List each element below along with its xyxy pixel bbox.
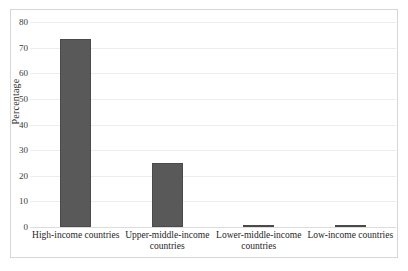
x-tick-label-line: countries xyxy=(215,241,303,252)
y-tick-label: 70 xyxy=(2,44,28,53)
y-tick-label: 40 xyxy=(2,121,28,130)
bar xyxy=(243,225,274,227)
x-tick-label: Lower-middle-incomecountries xyxy=(213,230,305,252)
x-tick-label-line: Lower-middle-income xyxy=(215,230,303,241)
y-tick-label: 0 xyxy=(2,223,28,232)
bar xyxy=(152,163,183,227)
gridline-80 xyxy=(30,22,396,23)
y-tick-label: 50 xyxy=(2,95,28,104)
gridline-0 xyxy=(30,227,396,228)
y-tick-label: 20 xyxy=(2,172,28,181)
figure: Percentage 80706050403020100 High-income… xyxy=(0,0,408,271)
x-tick-label-line: Upper-middle-income xyxy=(124,230,212,241)
bar xyxy=(60,39,91,227)
x-tick-label: Upper-middle-incomecountries xyxy=(122,230,214,252)
y-tick-label: 80 xyxy=(2,18,28,27)
x-tick-label-line: High-income countries xyxy=(32,230,120,241)
bar xyxy=(335,225,366,227)
y-tick-label: 10 xyxy=(2,197,28,206)
x-tick-label: High-income countries xyxy=(30,230,122,252)
y-tick-label: 30 xyxy=(2,146,28,155)
x-tick-label: Low-income countries xyxy=(305,230,397,252)
plot-area xyxy=(30,22,396,227)
x-tick-label-line: countries xyxy=(124,241,212,252)
x-tick-label-line: Low-income countries xyxy=(307,230,395,241)
x-axis-labels: High-income countriesUpper-middle-income… xyxy=(30,230,396,252)
y-tick-label: 60 xyxy=(2,69,28,78)
y-axis-ticks: 80706050403020100 xyxy=(0,22,28,227)
